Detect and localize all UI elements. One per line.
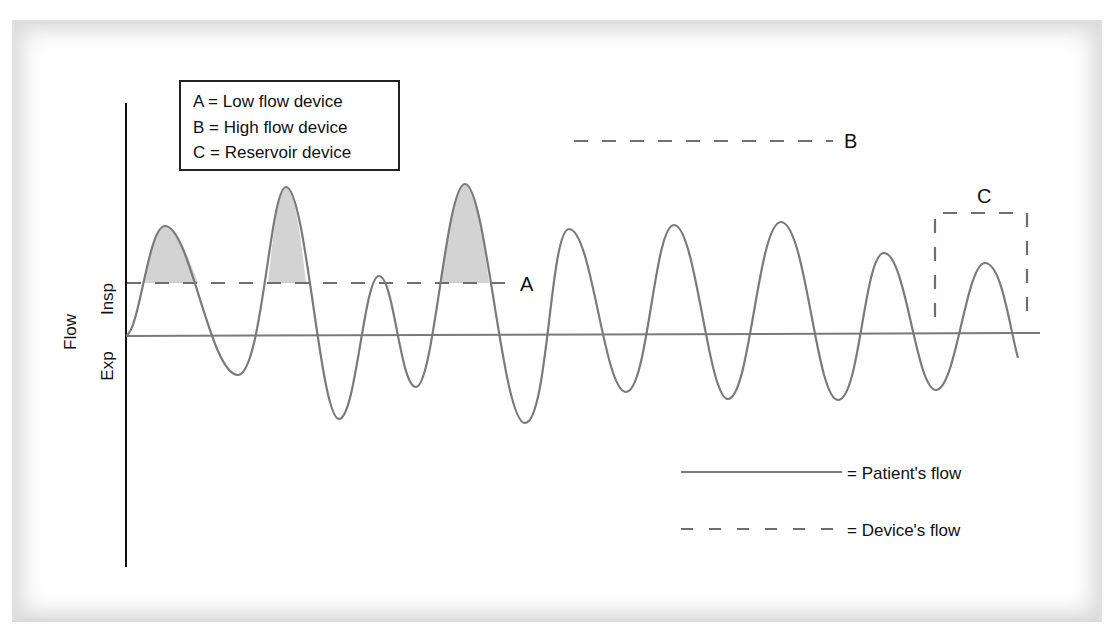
patient-flow-key-text: = Patient's flow: [847, 465, 961, 482]
shaded-area-2: [268, 187, 306, 283]
legend-item-low-flow: A = Low flow device: [193, 89, 398, 115]
device-flow-key-text: = Device's flow: [847, 522, 960, 539]
legend-item-high-flow: B = High flow device: [193, 115, 398, 141]
zero-flow-baseline: [125, 333, 1040, 336]
shaded-deficit-areas: [144, 184, 489, 283]
patient-flow-curve: [126, 184, 1018, 423]
device-legend: A = Low flow device B = High flow device…: [179, 80, 400, 171]
insp-axis-label: Insp: [99, 283, 116, 315]
exp-axis-label: Exp: [99, 351, 116, 380]
shaded-area-1: [144, 226, 198, 283]
marker-c-label: C: [977, 186, 991, 206]
flow-axis-label: Flow: [62, 314, 79, 350]
marker-b-label: B: [844, 131, 857, 151]
marker-a-label: A: [520, 274, 533, 294]
legend-item-reservoir: C = Reservoir device: [193, 140, 398, 166]
flow-diagram: [0, 0, 1116, 641]
